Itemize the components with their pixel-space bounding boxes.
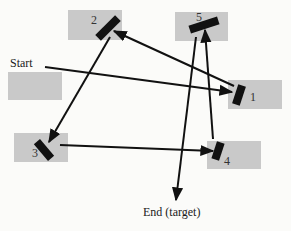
end-target-label: End (target) (143, 205, 200, 219)
box-2-label: 2 (91, 13, 97, 27)
mirror-path-diagram: 2 5 1 3 4 Start End (target) (0, 0, 291, 231)
box-3-label: 3 (32, 146, 38, 160)
beam-start-to-1 (45, 67, 232, 92)
beam-3-to-4 (60, 145, 213, 151)
start-label: Start (10, 56, 33, 70)
box-4-label: 4 (224, 154, 230, 168)
box-1-label: 1 (250, 90, 256, 104)
beam-4-to-5 (205, 30, 213, 139)
start-box (8, 72, 62, 100)
